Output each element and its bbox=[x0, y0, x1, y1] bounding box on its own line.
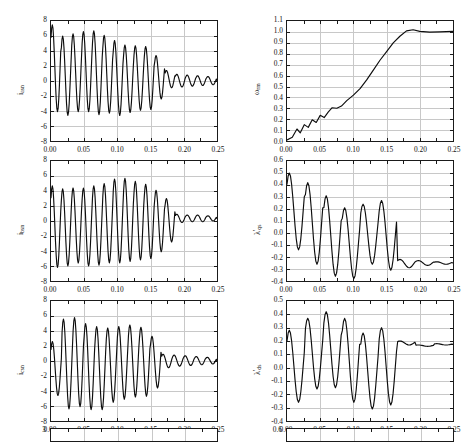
panel-partial-right: 0.6 bbox=[236, 424, 472, 438]
plotbox-ibs bbox=[50, 160, 218, 282]
ytick-label: -6 bbox=[41, 263, 47, 270]
ytick-label: 8 bbox=[43, 296, 47, 303]
ytick-label: 0.1 bbox=[274, 127, 283, 134]
ytick-label: 0.1 bbox=[274, 350, 283, 357]
ytick-label: 3 bbox=[42, 426, 46, 433]
ytick-label: 4 bbox=[43, 187, 47, 194]
ytick-label: -0.2 bbox=[271, 391, 283, 398]
ytick-label: 0.7 bbox=[274, 61, 283, 68]
data-trace-ibs bbox=[51, 161, 217, 281]
ytick-label: 6 bbox=[43, 312, 47, 319]
ytick-label: -2 bbox=[41, 93, 47, 100]
ytick-label: -0.2 bbox=[271, 254, 283, 261]
yticks-ibs: 86420-2-4-6-8 bbox=[2, 160, 47, 282]
partial-right-plotbox bbox=[286, 428, 454, 442]
plotbox-lambda_ds bbox=[286, 300, 454, 422]
ytick-label: 0.1 bbox=[274, 217, 283, 224]
ytick-label: 0 bbox=[43, 357, 47, 364]
partial-left-yticks: 3 bbox=[0, 424, 46, 438]
yticks-lambda_qs: 0.60.50.40.30.20.10.0-0.1-0.2-0.3-0.4 bbox=[238, 160, 283, 282]
ytick-label: 0.6 bbox=[274, 156, 283, 163]
ytick-label: 0.4 bbox=[274, 94, 283, 101]
yticks-omega: 1.11.00.90.80.70.60.50.40.30.20.10.0 bbox=[238, 20, 283, 142]
data-trace-ics bbox=[51, 301, 217, 421]
ytick-label: 0.5 bbox=[274, 296, 283, 303]
yticks-lambda_ds: 0.50.40.30.20.10.0-0.1-0.2-0.3-0.4 bbox=[238, 300, 283, 422]
ytick-label: 0 bbox=[43, 217, 47, 224]
ytick-label: -0.3 bbox=[271, 405, 283, 412]
ytick-label: 2 bbox=[43, 202, 47, 209]
yticks-ias: 86420-2-4-6-8 bbox=[2, 20, 47, 142]
plotbox-ias bbox=[50, 20, 218, 142]
ytick-label: -4 bbox=[41, 108, 47, 115]
yticks-ics: 86420-2-4-6-8 bbox=[2, 300, 47, 422]
plotbox-lambda_qs bbox=[286, 160, 454, 282]
ytick-label: 0.0 bbox=[274, 229, 283, 236]
ytick-label: 1.1 bbox=[274, 16, 283, 23]
partial-right-yticks: 0.6 bbox=[236, 424, 282, 438]
panel-lambda_qs: λ'qs0.60.50.40.30.20.10.0-0.1-0.2-0.3-0.… bbox=[236, 152, 472, 292]
ytick-label: 4 bbox=[43, 47, 47, 54]
ytick-label: 0.5 bbox=[274, 168, 283, 175]
ytick-label: -2 bbox=[41, 373, 47, 380]
plotbox-omega bbox=[286, 20, 454, 142]
data-trace-ias bbox=[51, 21, 217, 141]
panel-partial-left: 3 bbox=[0, 424, 236, 438]
ytick-label: -0.1 bbox=[271, 242, 283, 249]
panel-ias: iasn86420-2-4-6-80.000.050.100.150.200.2… bbox=[0, 12, 236, 152]
ytick-label: 0.6 bbox=[274, 72, 283, 79]
ytick-label: -0.1 bbox=[271, 378, 283, 385]
panel-ibs: ibsn86420-2-4-6-80.000.050.100.150.200.2… bbox=[0, 152, 236, 292]
ytick-label: 0.2 bbox=[274, 337, 283, 344]
ytick-label: 8 bbox=[43, 156, 47, 163]
ytick-label: 2 bbox=[43, 62, 47, 69]
ytick-label: 0.3 bbox=[274, 105, 283, 112]
ytick-label: 0.2 bbox=[274, 116, 283, 123]
partial-left-plotbox bbox=[50, 428, 218, 442]
ytick-label: 0.6 bbox=[273, 426, 282, 433]
ytick-label: 0.0 bbox=[274, 364, 283, 371]
ytick-label: 0.4 bbox=[274, 181, 283, 188]
ytick-label: 2 bbox=[43, 342, 47, 349]
ytick-label: -0.3 bbox=[271, 266, 283, 273]
panel-omega: ωrm1.11.00.90.80.70.60.50.40.30.20.10.00… bbox=[236, 12, 472, 152]
ytick-label: 0.2 bbox=[274, 205, 283, 212]
ytick-label: 6 bbox=[43, 172, 47, 179]
data-trace-lambda_qs bbox=[287, 161, 453, 281]
ytick-label: 0.3 bbox=[274, 323, 283, 330]
ytick-label: -4 bbox=[41, 388, 47, 395]
ytick-label: 4 bbox=[43, 327, 47, 334]
ytick-label: 0.5 bbox=[274, 83, 283, 90]
ytick-label: 8 bbox=[43, 16, 47, 23]
panel-ics: icsn86420-2-4-6-80.000.050.100.150.200.2… bbox=[0, 292, 236, 432]
ytick-label: 0 bbox=[43, 77, 47, 84]
ytick-label: 0.3 bbox=[274, 193, 283, 200]
ytick-label: 1.0 bbox=[274, 27, 283, 34]
ytick-label: -4 bbox=[41, 248, 47, 255]
ytick-label: 0.9 bbox=[274, 38, 283, 45]
panel-lambda_ds: λ'ds0.50.40.30.20.10.0-0.1-0.2-0.3-0.40.… bbox=[236, 292, 472, 432]
cut-off-top-row bbox=[0, 0, 472, 10]
ytick-label: -2 bbox=[41, 233, 47, 240]
data-trace-lambda_ds bbox=[287, 301, 453, 421]
ytick-label: -6 bbox=[41, 403, 47, 410]
ytick-label: 0.8 bbox=[274, 50, 283, 57]
plotbox-ics bbox=[50, 300, 218, 422]
ytick-label: -6 bbox=[41, 123, 47, 130]
data-trace-omega bbox=[287, 21, 453, 141]
ytick-label: 6 bbox=[43, 32, 47, 39]
ytick-label: 0.4 bbox=[274, 310, 283, 317]
